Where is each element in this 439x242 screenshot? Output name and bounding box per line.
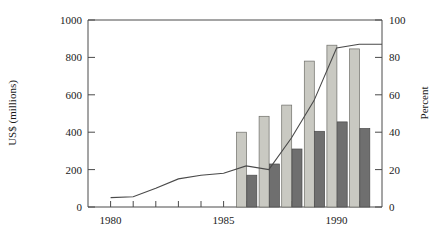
bar-light-1988	[282, 105, 292, 207]
right-axis-title: Percent	[418, 87, 430, 120]
y2tick-label-80: 80	[389, 51, 401, 63]
y2tick-label-40: 40	[389, 126, 401, 138]
right-axis-tick-labels: 0 20 40 60 80 100	[389, 14, 406, 213]
ytick-label-600: 600	[66, 89, 83, 101]
ytick-label-400: 400	[66, 126, 83, 138]
ytick-label-800: 800	[66, 51, 83, 63]
y2tick-label-0: 0	[389, 201, 395, 213]
bar-dark-1988	[292, 149, 302, 207]
left-axis-tick-labels: 0 200 400 600 800 1000	[60, 14, 83, 213]
bar-light-1989	[304, 61, 314, 207]
y2tick-label-60: 60	[389, 89, 401, 101]
chart-figure: 0 200 400 600 800 1000 0 20 40 60 80 100	[0, 0, 439, 242]
bar-dark-1986	[247, 175, 257, 207]
bar-dark-1991	[360, 129, 370, 208]
y2tick-label-20: 20	[389, 164, 401, 176]
bar-light-1990	[327, 45, 337, 207]
xtick-label-1985: 1985	[213, 214, 236, 226]
x-axis-tick-labels: 1980 1985 1990	[100, 214, 349, 226]
xtick-label-1990: 1990	[326, 214, 349, 226]
bar-dark-1990	[337, 122, 347, 207]
y2tick-label-100: 100	[389, 14, 406, 26]
ytick-label-1000: 1000	[60, 14, 83, 26]
left-axis-ticks	[88, 20, 95, 207]
bar-dark-1987	[269, 164, 279, 207]
ytick-label-200: 200	[66, 164, 83, 176]
right-axis-ticks	[375, 20, 382, 207]
bar-light-1991	[350, 49, 360, 207]
xtick-label-1980: 1980	[100, 214, 123, 226]
bar-light-1986	[237, 132, 247, 207]
left-axis-title: US$ (millions)	[6, 80, 19, 146]
ytick-label-0: 0	[77, 201, 83, 213]
bar-dark-1989	[315, 131, 325, 207]
bar-light-1987	[259, 116, 269, 207]
chart-canvas: 0 200 400 600 800 1000 0 20 40 60 80 100	[0, 0, 439, 242]
